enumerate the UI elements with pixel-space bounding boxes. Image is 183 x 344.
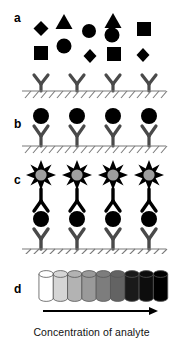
capture-antibody [142,75,156,91]
panel-c: c [0,158,183,254]
panel-d-graphic [0,266,183,322]
analyte-circle [33,108,49,124]
capture-antibody [70,126,84,146]
capture-antibody [142,126,156,146]
circle-shape [105,28,120,43]
surface-hatching [25,91,167,98]
surface-hatching [25,249,167,254]
figure-caption: Concentration of analyte [0,326,183,338]
assay-well [125,271,139,302]
arrow-head-icon [149,307,158,315]
sandwich-complex [98,160,128,249]
immunoassay-figure: a [0,0,183,344]
assay-well [153,271,167,302]
assay-well [110,271,124,302]
square-shape [34,46,48,60]
capture-antibody [106,75,120,91]
analyte-circle [141,108,157,124]
diamond-shape [84,49,97,63]
bound-analytes [33,108,157,124]
panel-d: d [0,266,183,322]
capture-antibodies [34,126,156,146]
solid-surface [22,146,167,153]
solid-surface [22,91,167,98]
capture-antibody [70,75,84,91]
surface-hatching [25,146,167,153]
capture-antibody [34,75,48,91]
assay-well [96,271,110,302]
panel-a-graphic [0,0,183,100]
solid-surface [22,249,167,254]
assay-wells [39,271,168,302]
assay-well [68,271,82,302]
circle-shape [57,39,72,54]
triangle-shape [56,14,73,29]
panel-b-graphic [0,104,183,156]
capture-antibody [106,126,120,146]
circle-shape [82,24,96,38]
assay-well [139,271,153,302]
analyte-circle [105,108,121,124]
capture-antibody [34,126,48,146]
panel-b: b [0,104,183,156]
analyte-circle [69,108,85,124]
sandwich-complex [62,160,92,249]
capture-antibodies [34,75,156,91]
assay-well [39,271,53,302]
sandwich-complex [134,160,164,249]
panel-a: a [0,0,183,100]
square-shape [107,47,121,61]
panel-c-graphic [0,158,183,254]
diamond-shape [137,48,150,62]
sandwich-complex [26,160,56,249]
assay-well [53,271,67,302]
analyte-molecules [34,13,152,63]
square-shape [137,22,151,36]
concentration-arrow [43,307,158,315]
diamond-shape [34,21,49,36]
triangle-shape [105,13,122,28]
assay-well [82,271,96,302]
